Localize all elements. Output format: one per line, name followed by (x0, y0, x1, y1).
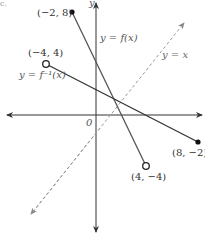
y-axis-label: y (89, 0, 95, 8)
label-finv: y = f⁻¹(x) (19, 70, 66, 80)
label-point-neg2-8: (−2, 8) (37, 8, 72, 18)
label-identity: y = x (162, 50, 188, 60)
point-4-neg4-open (143, 163, 150, 170)
point-neg4-4-open (43, 61, 50, 68)
label-f: y = f(x) (100, 33, 138, 43)
label-point-8-neg2: (8, −2) (172, 148, 205, 158)
corner-label: c. (0, 0, 7, 8)
label-point-4-neg4: (4, −4) (131, 172, 166, 182)
origin-label: 0 (86, 118, 92, 128)
point-8-neg2 (195, 139, 200, 144)
label-point-neg4-4: (−4, 4) (28, 48, 63, 58)
identity-line-neg (31, 128, 100, 214)
finv-line (46, 64, 198, 142)
